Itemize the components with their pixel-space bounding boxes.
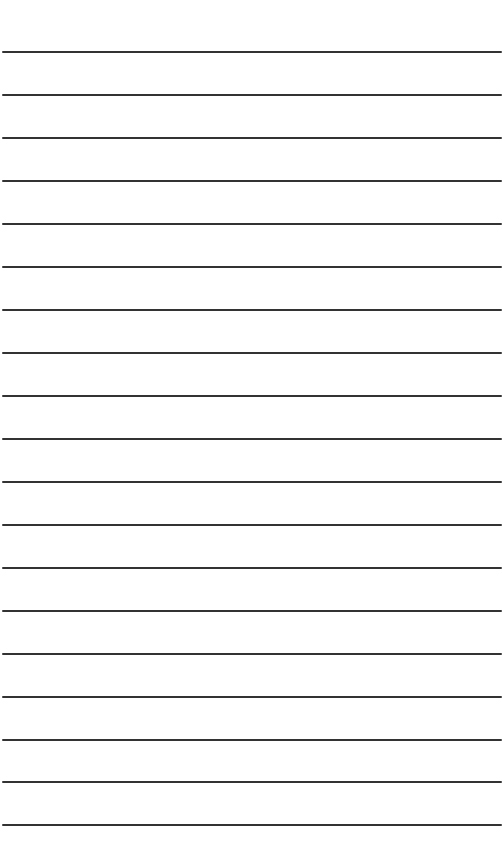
ruled-line: [2, 824, 502, 826]
ruled-line: [2, 653, 502, 655]
ruled-line: [2, 781, 502, 783]
ruled-line: [2, 223, 502, 225]
ruled-line: [2, 94, 502, 96]
ruled-line: [2, 51, 502, 53]
ruled-line: [2, 524, 502, 526]
ruled-line: [2, 610, 502, 612]
ruled-line: [2, 696, 502, 698]
ruled-line: [2, 352, 502, 354]
ruled-line: [2, 395, 502, 397]
ruled-line: [2, 137, 502, 139]
ruled-line: [2, 309, 502, 311]
ruled-line: [2, 567, 502, 569]
ruled-line: [2, 739, 502, 741]
ruled-line: [2, 266, 502, 268]
ruled-line: [2, 180, 502, 182]
ruled-line: [2, 481, 502, 483]
ruled-line: [2, 438, 502, 440]
